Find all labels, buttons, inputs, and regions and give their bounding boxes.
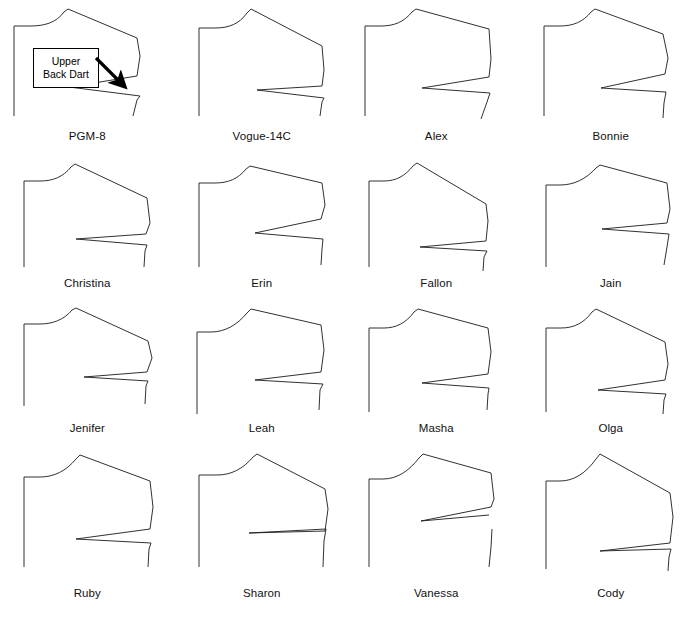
pattern-outline-bonnie bbox=[524, 0, 698, 130]
pattern-cell-vogue-14c[interactable]: Vogue-14C bbox=[175, 0, 350, 157]
pattern-outline-vogue-14c bbox=[175, 0, 349, 130]
pattern-cell-christina[interactable]: Christina bbox=[0, 157, 175, 302]
pattern-path bbox=[546, 165, 670, 267]
pattern-cell-leah[interactable]: Leah bbox=[175, 302, 350, 447]
pattern-outline-erin bbox=[175, 157, 349, 277]
pattern-label: Erin bbox=[251, 277, 272, 290]
pattern-cell-pgm-8[interactable]: PGM-8 Upper Back Dart bbox=[0, 0, 175, 157]
pattern-path bbox=[369, 454, 494, 567]
pattern-path bbox=[369, 309, 491, 412]
pattern-path bbox=[544, 9, 668, 118]
pattern-label: Vogue-14C bbox=[233, 130, 291, 143]
pattern-label: Leah bbox=[249, 422, 275, 435]
pattern-outline-jenifer bbox=[0, 302, 174, 422]
pattern-path bbox=[199, 9, 324, 116]
pattern-outline-alex bbox=[349, 0, 523, 130]
pattern-label: Masha bbox=[419, 422, 454, 435]
pattern-cell-vanessa[interactable]: Vanessa bbox=[349, 447, 524, 620]
pattern-label: Olga bbox=[598, 422, 623, 435]
pattern-outline-fallon bbox=[349, 157, 523, 277]
pattern-outline-christina bbox=[0, 157, 174, 277]
pattern-path bbox=[24, 164, 150, 267]
pattern-path bbox=[199, 166, 325, 267]
pattern-label: Bonnie bbox=[593, 130, 629, 143]
pattern-path bbox=[365, 9, 491, 119]
pattern-outline-sharon bbox=[175, 447, 349, 587]
pattern-path bbox=[199, 454, 328, 567]
pattern-outline-cody bbox=[524, 447, 698, 587]
pattern-path bbox=[546, 454, 673, 571]
pattern-cell-jenifer[interactable]: Jenifer bbox=[0, 302, 175, 447]
pattern-grid-figure: PGM-8 Upper Back Dart Vogue-14C bbox=[0, 0, 698, 620]
pattern-label: Fallon bbox=[420, 277, 452, 290]
pattern-cell-ruby[interactable]: Ruby bbox=[0, 447, 175, 620]
callout-line-1: Upper bbox=[52, 55, 81, 68]
pattern-grid: PGM-8 Upper Back Dart Vogue-14C bbox=[0, 0, 698, 620]
pattern-label: PGM-8 bbox=[69, 130, 106, 143]
pattern-label: Cody bbox=[597, 587, 624, 600]
callout-line-2: Back Dart bbox=[43, 68, 89, 81]
pattern-cell-alex[interactable]: Alex bbox=[349, 0, 524, 157]
pattern-cell-masha[interactable]: Masha bbox=[349, 302, 524, 447]
pattern-label: Christina bbox=[64, 277, 110, 290]
pattern-path bbox=[24, 455, 153, 567]
pattern-cell-jain[interactable]: Jain bbox=[524, 157, 698, 302]
pattern-outline-olga bbox=[524, 302, 698, 422]
pattern-label: Sharon bbox=[243, 587, 281, 600]
pattern-cell-erin[interactable]: Erin bbox=[175, 157, 350, 302]
pattern-label: Jain bbox=[600, 277, 622, 290]
pattern-path bbox=[369, 163, 488, 271]
pattern-label: Jenifer bbox=[70, 422, 105, 435]
pattern-label: Ruby bbox=[74, 587, 101, 600]
pattern-label: Alex bbox=[425, 130, 448, 143]
pattern-outline-vanessa bbox=[349, 447, 523, 587]
pattern-cell-cody[interactable]: Cody bbox=[524, 447, 698, 620]
pattern-path bbox=[197, 309, 324, 414]
pattern-outline-jain bbox=[524, 157, 698, 277]
pattern-cell-bonnie[interactable]: Bonnie bbox=[524, 0, 698, 157]
pattern-path bbox=[24, 308, 152, 406]
pattern-outline-leah bbox=[175, 302, 349, 422]
upper-back-dart-callout: Upper Back Dart bbox=[33, 48, 99, 88]
pattern-outline-ruby bbox=[0, 447, 174, 587]
pattern-cell-sharon[interactable]: Sharon bbox=[175, 447, 350, 620]
pattern-label: Vanessa bbox=[414, 587, 459, 600]
pattern-path bbox=[546, 309, 668, 414]
pattern-cell-olga[interactable]: Olga bbox=[524, 302, 698, 447]
pattern-cell-fallon[interactable]: Fallon bbox=[349, 157, 524, 302]
pattern-outline-masha bbox=[349, 302, 523, 422]
